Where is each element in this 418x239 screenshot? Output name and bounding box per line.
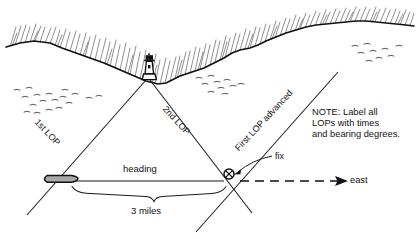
ship-icon [45,176,79,183]
note-line-3: and bearing degrees. [312,129,400,140]
navigation-diagram: 1st LOP 2nd LOP First LOP advanced headi… [0,0,418,239]
line-of-position-advanced [196,72,338,232]
label-heading: heading [123,163,157,174]
shoreline-path [6,21,414,84]
birds-right-icon [352,43,402,61]
lighthouse-icon [142,52,156,80]
note-line-1: NOTE: Label all [312,107,400,118]
east-dashed-arrow [240,176,348,186]
label-east: east [350,175,368,186]
fix-circled-x-icon [224,169,234,179]
note-block: NOTE: Label all LOPs with times and bear… [312,107,400,140]
birds-left-icon [14,87,102,113]
label-fix: fix [275,151,284,162]
note-line-2: LOPs with times [312,118,400,129]
fix-leader-arrow [234,156,272,175]
distance-brace-icon [72,187,226,202]
label-distance: 3 miles [131,205,161,216]
birds-mid-icon [196,75,244,94]
